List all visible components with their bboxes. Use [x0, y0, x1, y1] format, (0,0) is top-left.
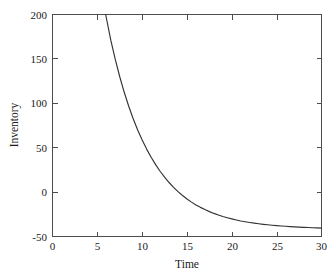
x-tick-label: 0 — [50, 240, 56, 252]
x-tick-label: 15 — [182, 240, 194, 252]
inventory-vs-time-chart: 0 5 10 15 20 25 30 -50 0 50 100 150 200 … — [0, 0, 336, 278]
y-axis-title: Inventory — [8, 102, 21, 147]
x-tick-label: 10 — [137, 240, 149, 252]
x-axis-title: Time — [175, 258, 199, 270]
y-tick-label: 150 — [31, 53, 48, 65]
x-tick-label: 20 — [227, 240, 239, 252]
y-tick-label: -50 — [32, 231, 47, 243]
y-tick-label: 100 — [31, 97, 48, 109]
chart-figure: 0 5 10 15 20 25 30 -50 0 50 100 150 200 … — [0, 0, 336, 278]
x-tick-label: 25 — [272, 240, 284, 252]
y-tick-label: 0 — [42, 186, 48, 198]
x-tick-label: 5 — [95, 240, 101, 252]
y-tick-label: 200 — [31, 9, 48, 21]
y-tick-label: 50 — [36, 142, 48, 154]
x-tick-label: 30 — [316, 240, 328, 252]
